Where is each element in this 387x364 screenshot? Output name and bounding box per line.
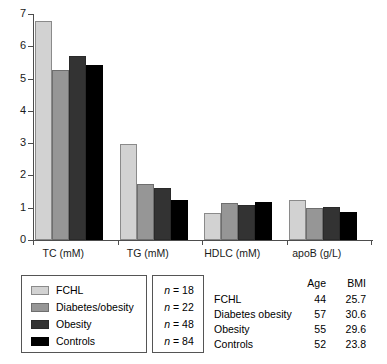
- n-symbol: n: [164, 284, 170, 296]
- stats-row-age: 44: [300, 293, 326, 305]
- legend-item: Controls: [31, 333, 95, 349]
- legend: FCHLDiabetes/obesityObesityControls: [21, 275, 147, 353]
- x-group-label: TG (mM): [106, 247, 191, 259]
- legend-label: Obesity: [56, 318, 92, 330]
- stats-table: AgeBMIFCHL4425.7Diabetes obesity5730.6Ob…: [214, 275, 374, 353]
- n-symbol: n: [164, 335, 170, 347]
- stats-row-age: 57: [300, 308, 326, 320]
- stats-row-bmi: 23.8: [334, 338, 366, 350]
- y-tick-label: 6: [2, 40, 26, 51]
- x-tick: [118, 240, 119, 245]
- bar: [120, 144, 137, 240]
- y-tick-5: [28, 79, 34, 80]
- y-tick-label-box: 5: [0, 73, 26, 84]
- y-tick-6: [28, 46, 34, 47]
- y-tick-label: 2: [2, 169, 26, 180]
- bar: [35, 21, 52, 240]
- stats-row-group: FCHL: [214, 293, 241, 305]
- bar: [289, 200, 306, 240]
- bar: [52, 70, 69, 240]
- y-tick-label-box: 6: [0, 40, 26, 51]
- sample-size-row: n = 48: [153, 318, 205, 330]
- stats-row-group: Controls: [214, 338, 253, 350]
- y-tick-label: 4: [2, 105, 26, 116]
- y-tick-label: 1: [2, 202, 26, 213]
- bar: [255, 202, 272, 240]
- y-tick-label-box: 1: [0, 202, 26, 213]
- stats-header-age: Age: [300, 277, 326, 289]
- y-tick-1: [28, 208, 34, 209]
- x-tick: [287, 240, 288, 245]
- legend-label: Diabetes/obesity: [56, 301, 134, 313]
- x-axis-line: [33, 240, 373, 241]
- x-tick: [33, 240, 34, 245]
- x-tick: [371, 240, 372, 245]
- n-symbol: n: [164, 318, 170, 330]
- legend-color-swatch: [31, 337, 49, 346]
- legend-item: FCHL: [31, 282, 83, 298]
- bar: [69, 56, 86, 240]
- bar: [171, 200, 188, 240]
- n-symbol: n: [164, 301, 170, 313]
- y-tick-4: [28, 111, 34, 112]
- stats-header-bmi: BMI: [334, 277, 366, 289]
- y-tick-label-box: 2: [0, 169, 26, 180]
- bar: [340, 212, 357, 240]
- bar-chart-figure: 01234567 TC (mM)TG (mM)HDLC (mM)apoB (g/…: [0, 0, 387, 364]
- x-group-label: HDLC (mM): [190, 247, 275, 259]
- y-tick-label: 7: [2, 8, 26, 19]
- x-group-label: TC (mM): [21, 247, 106, 259]
- y-tick-label: 5: [2, 73, 26, 84]
- sample-size-row: n = 84: [153, 335, 205, 347]
- bar: [204, 213, 221, 240]
- stats-row-bmi: 25.7: [334, 293, 366, 305]
- legend-label: Controls: [56, 335, 95, 347]
- legend-item: Diabetes/obesity: [31, 299, 134, 315]
- bar: [137, 184, 154, 240]
- sample-size-row: n = 18: [153, 284, 205, 296]
- bar: [86, 65, 103, 240]
- legend-color-swatch: [31, 320, 49, 329]
- y-tick-7: [28, 14, 34, 15]
- y-tick-label: 0: [2, 234, 26, 245]
- bar: [238, 205, 255, 240]
- sample-size-box: n = 18n = 22n = 48n = 84: [152, 275, 204, 353]
- bar: [221, 203, 238, 240]
- stats-row-bmi: 30.6: [334, 308, 366, 320]
- y-tick-label: 3: [2, 137, 26, 148]
- y-tick-label-box: 0: [0, 234, 26, 245]
- legend-color-swatch: [31, 286, 49, 295]
- x-tick: [202, 240, 203, 245]
- sample-size-row: n = 22: [153, 301, 205, 313]
- y-tick-3: [28, 143, 34, 144]
- stats-row-group: Obesity: [214, 323, 250, 335]
- stats-row-bmi: 29.6: [334, 323, 366, 335]
- stats-row-age: 52: [300, 338, 326, 350]
- x-group-label: apoB (g/L): [275, 247, 360, 259]
- legend-item: Obesity: [31, 316, 92, 332]
- plot-area: 01234567 TC (mM)TG (mM)HDLC (mM)apoB (g/…: [0, 0, 387, 262]
- y-tick-label-box: 4: [0, 105, 26, 116]
- y-tick-label-box: 3: [0, 137, 26, 148]
- y-tick-label-box: 7: [0, 8, 26, 19]
- legend-color-swatch: [31, 303, 49, 312]
- bar: [154, 188, 171, 240]
- stats-row-group: Diabetes obesity: [214, 308, 292, 320]
- legend-label: FCHL: [56, 284, 83, 296]
- stats-row-age: 55: [300, 323, 326, 335]
- bar: [323, 207, 340, 240]
- y-tick-2: [28, 175, 34, 176]
- bar: [306, 208, 323, 240]
